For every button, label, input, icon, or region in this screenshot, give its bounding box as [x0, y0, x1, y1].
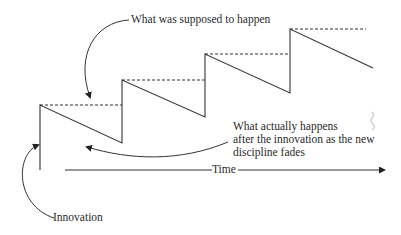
actual-label-line2: after the innovation as the new	[233, 133, 374, 146]
actual-callout-arrow	[87, 142, 228, 157]
supposed-label: What was supposed to happen	[131, 13, 270, 26]
innovation-label: Innovation	[53, 211, 103, 224]
actual-label-line3: discipline fades	[233, 146, 305, 159]
diagram-canvas: What was supposed to happen What actuall…	[0, 0, 401, 235]
actual-label-line1: What actually happens	[233, 120, 338, 133]
innovation-callout-arrow	[22, 145, 54, 218]
actual-performance-line	[40, 29, 373, 170]
sawtooth-diagram	[0, 0, 401, 235]
faint-squiggle-mark	[371, 112, 375, 130]
time-axis-label: Time	[212, 163, 236, 176]
